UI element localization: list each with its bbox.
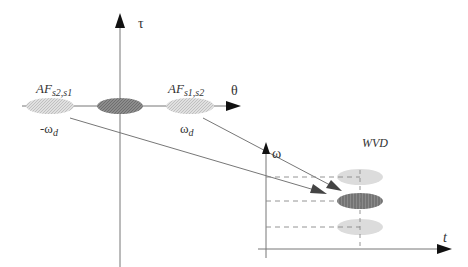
t-arrow-icon — [437, 244, 452, 254]
arrow-head-left-icon — [310, 184, 327, 194]
ambiguity-function-plot: τ θ AFs2,s1 AFs1,s2 -ωd ωd — [22, 13, 241, 267]
tau-label: τ — [138, 16, 144, 31]
cross-term-ellipse-right — [166, 98, 214, 114]
af-s2s1-label: AFs2,s1 — [35, 81, 72, 98]
omega-arrow-icon — [262, 142, 270, 154]
omega-label: ω — [272, 146, 281, 161]
t-label: t — [443, 230, 448, 245]
omega-d-label: ωd — [180, 121, 195, 138]
mapping-arrows — [70, 118, 342, 194]
arrow-head-right-icon — [326, 180, 342, 191]
cross-term-ellipse-left — [26, 98, 74, 114]
theta-label: θ — [231, 83, 238, 98]
af-s1s2-label: AFs1,s2 — [167, 81, 204, 98]
tau-arrow-icon — [115, 13, 125, 28]
theta-arrow-icon — [226, 101, 241, 111]
neg-omega-d-label: -ωd — [40, 121, 59, 138]
diagram-canvas: τ θ AFs2,s1 AFs1,s2 -ωd ωd ω t WVD — [0, 0, 468, 267]
wvd-title: WVD — [362, 136, 388, 150]
wvd-plot: ω t WVD — [258, 136, 452, 258]
auto-term-ellipse — [97, 98, 143, 114]
